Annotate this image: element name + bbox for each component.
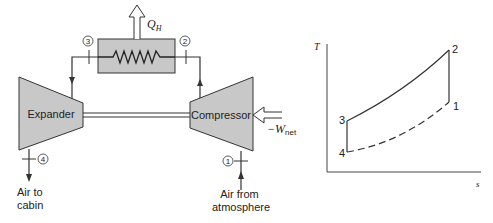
state-2-marker: 2 <box>180 36 190 46</box>
process-2-3 <box>347 50 449 121</box>
ts-point-2: 2 <box>452 43 458 55</box>
heat-rejection-label: QH <box>147 17 163 33</box>
flow-arrow-up-icon <box>197 79 203 86</box>
svg-text:Compressor: Compressor <box>191 109 251 121</box>
pipe-2 <box>175 57 200 104</box>
diagram-canvas: QH 3 2 Expander Compress <box>0 0 493 223</box>
net-work-label: −Wnet <box>267 122 297 137</box>
work-in-arrow-icon <box>253 107 282 123</box>
state-1-marker: 1 <box>223 156 233 166</box>
svg-text:1: 1 <box>226 157 231 166</box>
y-axis-label: T <box>314 41 321 52</box>
ts-diagram: T s 2 1 3 4 <box>314 41 481 189</box>
svg-text:Expander: Expander <box>27 108 74 120</box>
heat-exchanger <box>98 39 175 73</box>
ts-point-1: 1 <box>453 100 459 112</box>
pipe-3 <box>72 57 98 103</box>
ts-point-3: 3 <box>339 114 345 126</box>
flow-arrow-down-icon <box>26 174 32 182</box>
expander: Expander <box>19 77 83 150</box>
inlet-label: Air from atmosphere <box>212 188 270 213</box>
svg-text:2: 2 <box>183 37 188 46</box>
x-axis-label: s <box>476 179 480 189</box>
svg-text:3: 3 <box>86 37 91 46</box>
heat-out-arrow-icon <box>129 5 145 39</box>
flow-arrow-up-icon <box>238 171 244 179</box>
state-3-marker: 3 <box>83 36 93 46</box>
ts-point-4: 4 <box>339 147 345 159</box>
outlet-label: Air to cabin <box>17 186 46 211</box>
process-4-1 <box>347 102 449 152</box>
schematic: QH 3 2 Expander Compress <box>17 5 297 213</box>
state-4-marker: 4 <box>38 154 48 164</box>
shaft <box>83 113 190 117</box>
flow-arrow-down-icon <box>69 77 75 84</box>
svg-text:4: 4 <box>41 155 46 164</box>
